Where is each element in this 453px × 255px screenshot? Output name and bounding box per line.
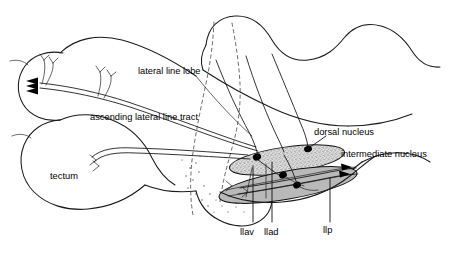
label-intermediate-nucleus: intermediate nucleus	[341, 149, 427, 159]
label-llp: llp	[323, 225, 332, 235]
label-dorsal-nucleus: dorsal nucleus	[314, 127, 374, 137]
rostral-terminal-branches	[40, 54, 58, 85]
lateral-line-pathway-figure: lateral line lobe ascending lateral line…	[0, 0, 453, 255]
label-lateral-line-lobe: lateral line lobe	[138, 66, 201, 76]
cerebellum-outline	[206, 16, 440, 67]
label-llad: llad	[264, 227, 278, 237]
tectal-terminal-branch	[90, 155, 99, 171]
body-right-taper	[348, 114, 412, 126]
tectum-outline	[21, 120, 145, 209]
cerebellum-left-edge	[201, 45, 206, 70]
brain-diagram-svg: lateral line lobe ascending lateral line…	[0, 0, 453, 255]
ascending-tract-arrowheads	[26, 78, 38, 95]
label-llav: llav	[240, 227, 254, 237]
tectal-tract-line-1	[92, 148, 248, 157]
midlobe-terminal-branches	[96, 66, 116, 98]
tectal-tract-line-2	[94, 153, 250, 162]
rostral-lobe-notch	[10, 60, 28, 65]
descending-fiber-3	[272, 54, 308, 147]
label-tectum: tectum	[50, 171, 78, 181]
hidden-contour-lateral	[220, 23, 240, 202]
midbrain-body-outline	[203, 70, 348, 126]
descending-fiber-4	[196, 76, 252, 136]
label-ascending-lateral-line-tract: ascending lateral line tract	[90, 112, 198, 122]
